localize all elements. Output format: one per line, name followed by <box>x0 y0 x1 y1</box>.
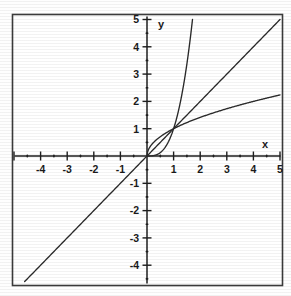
y-tick-label: -2 <box>130 204 139 216</box>
x-tick-label: 2 <box>197 163 203 175</box>
y-tick-label: 2 <box>133 95 139 107</box>
x-axis-label: x <box>262 138 269 150</box>
x-tick-label: 1 <box>171 163 177 175</box>
x-tick-label: -3 <box>63 163 72 175</box>
x-tick-label: 4 <box>250 163 256 175</box>
x-tick-label: -1 <box>116 163 125 175</box>
y-tick-label: -4 <box>130 259 139 271</box>
y-tick-label: 1 <box>133 123 139 135</box>
y-tick-label: 3 <box>133 68 139 80</box>
x-tick-label: 3 <box>224 163 230 175</box>
y-tick-label: -1 <box>130 177 139 189</box>
x-tick-label: -4 <box>36 163 45 175</box>
y-tick-label: 4 <box>133 41 139 53</box>
y-axis-label: y <box>158 18 165 30</box>
y-tick-label: -3 <box>130 232 139 244</box>
graph-figure: -4-3-2-11234554321-1-2-3-4 x y <box>0 0 291 296</box>
x-tick-label: 5 <box>277 163 283 175</box>
x-tick-label: -2 <box>89 163 98 175</box>
y-tick-label: 5 <box>133 13 139 25</box>
plot-canvas: -4-3-2-11234554321-1-2-3-4 x y <box>0 0 291 296</box>
